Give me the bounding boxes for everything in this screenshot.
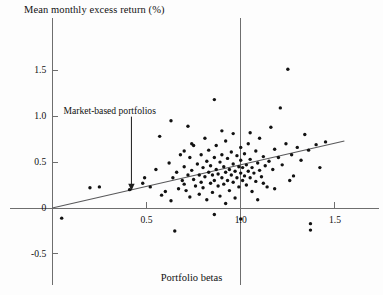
data-point [231, 132, 234, 135]
data-point [262, 155, 265, 158]
data-point [228, 189, 231, 192]
data-point [237, 185, 240, 188]
data-point [256, 198, 259, 201]
data-point [299, 159, 302, 162]
data-point [181, 179, 184, 182]
data-point [203, 137, 206, 140]
data-point [196, 162, 199, 165]
data-point [211, 191, 214, 194]
data-point [171, 176, 174, 179]
data-point [188, 195, 191, 198]
data-point [290, 153, 293, 156]
data-point [179, 153, 182, 156]
data-point [182, 165, 185, 168]
data-point [190, 142, 193, 145]
y-tick-label: 1.5 [20, 64, 46, 75]
data-point [203, 175, 206, 178]
data-point [235, 176, 238, 179]
data-point [207, 171, 210, 174]
data-point [243, 152, 246, 155]
y-tick-label: -0.5 [20, 248, 46, 259]
data-point [231, 162, 234, 165]
data-point [314, 143, 317, 146]
data-point [324, 140, 327, 143]
y-tick-label: 0 [20, 202, 46, 213]
annotation-arrow-group [128, 117, 134, 191]
data-point [186, 173, 189, 176]
data-point [141, 182, 144, 185]
data-point [233, 170, 236, 173]
data-point [247, 142, 250, 145]
data-point [154, 168, 157, 171]
data-point [239, 146, 242, 149]
data-point [190, 169, 193, 172]
data-point [216, 184, 219, 187]
data-point [267, 159, 270, 162]
data-point [98, 185, 101, 188]
data-point [149, 185, 152, 188]
data-point [175, 171, 178, 174]
data-point [224, 171, 227, 174]
data-point [60, 216, 63, 219]
data-point [258, 169, 261, 172]
data-point [220, 129, 223, 132]
data-point [248, 131, 251, 134]
data-point [247, 170, 250, 173]
data-point [205, 198, 208, 201]
chart-figure: Mean monthly excess return (%) Market-ba… [0, 0, 383, 295]
data-point [318, 166, 321, 169]
data-point [128, 188, 131, 191]
data-point [309, 222, 312, 225]
data-point [309, 228, 312, 231]
data-point [186, 125, 189, 128]
data-point [220, 153, 223, 156]
data-point [307, 148, 310, 151]
data-point [199, 181, 202, 184]
data-point [280, 163, 283, 166]
y-tick-label: 0.5 [20, 156, 46, 167]
data-point [213, 213, 216, 216]
data-point [296, 146, 299, 149]
data-point [199, 153, 202, 156]
data-point [215, 144, 218, 147]
data-point [220, 176, 223, 179]
data-point [201, 186, 204, 189]
data-point [286, 68, 289, 71]
data-point [169, 199, 172, 202]
data-point [303, 133, 306, 136]
data-point [271, 168, 274, 171]
data-point [198, 173, 201, 176]
data-point [284, 142, 287, 145]
data-point [207, 148, 210, 151]
data-point [88, 186, 91, 189]
data-point [209, 164, 212, 167]
data-point [218, 194, 221, 197]
data-point [277, 156, 280, 159]
data-point [248, 158, 251, 161]
data-point [264, 164, 267, 167]
data-point [245, 183, 248, 186]
x-tick-label: 0.5 [132, 214, 162, 225]
data-point [198, 193, 201, 196]
data-point [258, 137, 261, 140]
data-point [254, 180, 257, 183]
data-point [184, 189, 187, 192]
data-point [273, 187, 276, 190]
data-point [250, 166, 253, 169]
data-point [164, 190, 167, 193]
axes-group [10, 18, 379, 285]
data-point [260, 175, 263, 178]
data-point [182, 149, 185, 152]
data-point [226, 179, 229, 182]
data-point [218, 160, 221, 163]
data-point [273, 148, 276, 151]
data-point [228, 168, 231, 171]
data-point [243, 174, 246, 177]
data-point [222, 182, 225, 185]
chart-canvas [0, 0, 383, 295]
data-point [173, 229, 176, 232]
data-point [237, 165, 240, 168]
data-point [241, 166, 244, 169]
data-point [245, 163, 248, 166]
data-point [269, 125, 272, 128]
